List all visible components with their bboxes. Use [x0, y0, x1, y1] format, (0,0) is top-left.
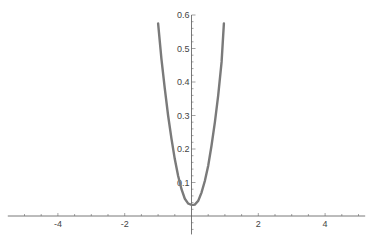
x-tick-label: -2 — [121, 219, 129, 229]
x-tick-label: 2 — [256, 219, 261, 229]
y-tick-label: 0.2 — [177, 144, 190, 154]
y-tick-label: 0.4 — [177, 77, 190, 87]
series-line — [158, 23, 224, 205]
chart: -4-2240.10.20.30.40.50.6 — [0, 0, 378, 236]
y-tick-label: 0.5 — [177, 44, 190, 54]
y-tick-label: 0.3 — [177, 111, 190, 121]
plot-area — [158, 23, 224, 205]
x-tick-label: -4 — [54, 219, 62, 229]
y-tick-label: 0.6 — [177, 10, 190, 20]
tick-labels: -4-2240.10.20.30.40.50.6 — [54, 10, 328, 229]
x-tick-label: 4 — [323, 219, 328, 229]
